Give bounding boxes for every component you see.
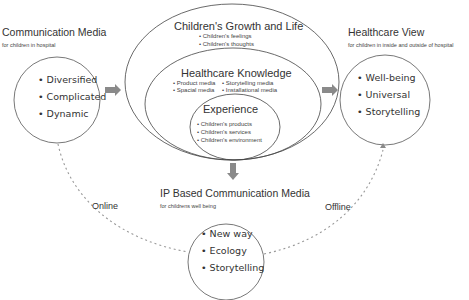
middle-item: • Spacial media — [173, 87, 214, 93]
right-item: • Storytelling — [357, 107, 420, 117]
middle-item: • Product media — [173, 80, 215, 86]
bottom-subtitle: for childrens well being — [160, 204, 216, 210]
left-item: • Dynamic — [38, 109, 89, 119]
outer-item: • Children's thoughts — [199, 41, 254, 47]
bottom-item: • Storytelling — [201, 263, 264, 273]
bottom-title: IP Based Communication Media — [160, 188, 310, 199]
offline-dashed-connector — [264, 150, 383, 254]
middle-item: • Installational media — [222, 87, 277, 93]
outer-item: • Children's feelings — [199, 33, 252, 39]
left-title: Communication Media — [2, 27, 106, 38]
online-label: Online — [92, 202, 118, 211]
right-subtitle: for children in inside and outside of ho… — [348, 43, 453, 49]
left-item: • Complicated — [38, 92, 106, 102]
arrow-right-icon — [105, 84, 121, 96]
right-circle — [340, 55, 430, 145]
left-item: • Diversified — [38, 75, 97, 85]
middle-title: Healthcare Knowledge — [181, 68, 292, 79]
middle-item: • Storytelling media — [222, 80, 273, 86]
arrow-down-icon — [227, 163, 239, 180]
bottom-item: • Ecology — [201, 246, 247, 256]
left-subtitle: for children in hospital — [2, 43, 56, 49]
inner-title: Experience — [203, 104, 258, 115]
arrow-right-icon — [322, 84, 338, 96]
inner-item: • Children's services — [197, 129, 251, 135]
bottom-item: • New way — [201, 229, 253, 239]
outer-title: Children's Growth and Life — [174, 21, 303, 32]
inner-item: • Children's products — [197, 121, 252, 127]
right-title: Healthcare View — [348, 27, 424, 38]
right-item: • Universal — [357, 90, 410, 100]
right-item: • Well-being — [357, 73, 416, 83]
offline-label: Offline — [325, 203, 351, 212]
inner-item: • Children's environment — [197, 137, 262, 143]
arrow-up-icon — [380, 143, 386, 148]
